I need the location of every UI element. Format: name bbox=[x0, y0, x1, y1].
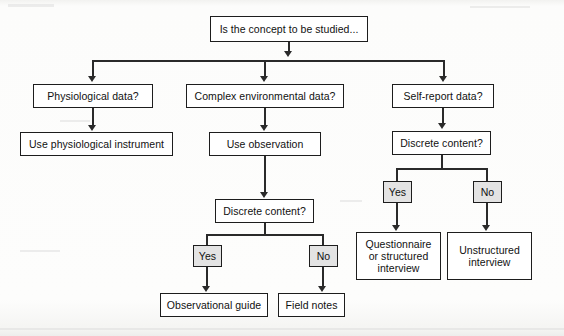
node-observational-guide[interactable]: Observational guide bbox=[160, 293, 268, 317]
edge-middle-no-to-field-notes bbox=[322, 267, 324, 288]
arrow-right-yes-to-questionnaire bbox=[392, 225, 400, 231]
node-discrete-content-right-label: Discrete content? bbox=[400, 137, 483, 149]
arrow-middle-no-to-field-notes bbox=[318, 286, 326, 292]
edge-right-bus-to-yes bbox=[396, 168, 398, 181]
node-right-no[interactable]: No bbox=[473, 181, 502, 203]
node-root-label: Is the concept to be studied... bbox=[220, 23, 359, 35]
arrow-right-no-to-unstructured-interview bbox=[482, 225, 490, 231]
node-use-observation-label: Use observation bbox=[227, 138, 304, 150]
node-field-notes-label: Field notes bbox=[286, 299, 338, 311]
node-branch-physiological-label: Physiological data? bbox=[47, 90, 138, 102]
node-unstructured-interview[interactable]: Unstructured interview bbox=[447, 232, 532, 280]
arrow-complex-environmental-to-observation bbox=[260, 125, 268, 131]
node-field-notes[interactable]: Field notes bbox=[278, 293, 345, 317]
edge-right-yes-to-questionnaire bbox=[396, 203, 398, 227]
node-middle-no-label: No bbox=[317, 250, 331, 262]
node-branch-physiological[interactable]: Physiological data? bbox=[33, 84, 153, 108]
scan-speckle bbox=[20, 250, 60, 252]
edge-middle-bus-to-no bbox=[322, 234, 324, 245]
node-middle-yes-label: Yes bbox=[199, 250, 216, 262]
node-middle-yes[interactable]: Yes bbox=[193, 245, 222, 267]
node-use-observation[interactable]: Use observation bbox=[209, 132, 321, 156]
arrow-self-report-to-discrete-content bbox=[438, 123, 446, 129]
node-questionnaire-or-structured-interview-label: Questionnaire or structured interview bbox=[360, 238, 437, 274]
edge-discrete-content-middle-bus bbox=[206, 234, 324, 236]
node-unstructured-interview-label: Unstructured interview bbox=[451, 244, 528, 268]
node-use-physiological-instrument-label: Use physiological instrument bbox=[29, 138, 164, 150]
scan-speckle bbox=[340, 200, 362, 202]
edge-right-bus bbox=[396, 168, 488, 170]
edge-middle-yes-to-observational-guide bbox=[206, 267, 208, 288]
edge-middle-bus-to-yes bbox=[206, 234, 208, 245]
node-observational-guide-label: Observational guide bbox=[167, 299, 261, 311]
arrow-middle-yes-to-observational-guide bbox=[202, 286, 210, 292]
arrow-bus-to-complex-environmental bbox=[260, 76, 268, 82]
node-right-yes-label: Yes bbox=[389, 186, 406, 198]
arrow-physiological-to-instrument bbox=[88, 125, 96, 131]
node-branch-self-report-label: Self-report data? bbox=[403, 90, 482, 102]
node-branch-complex-environmental[interactable]: Complex environmental data? bbox=[186, 84, 344, 108]
scan-speckle bbox=[0, 328, 564, 330]
node-discrete-content-right[interactable]: Discrete content? bbox=[392, 131, 491, 155]
node-branch-self-report[interactable]: Self-report data? bbox=[392, 84, 494, 108]
node-right-no-label: No bbox=[481, 186, 495, 198]
node-middle-no[interactable]: No bbox=[309, 245, 338, 267]
edge-observation-to-discrete-content bbox=[264, 156, 266, 194]
node-discrete-content-middle-label: Discrete content? bbox=[223, 205, 306, 217]
node-right-yes[interactable]: Yes bbox=[383, 181, 412, 203]
arrow-bus-to-self-report bbox=[439, 76, 447, 82]
node-questionnaire-or-structured-interview[interactable]: Questionnaire or structured interview bbox=[356, 232, 441, 280]
flowchart-figure: Is the concept to be studied... Physiolo… bbox=[0, 0, 564, 336]
arrow-root-stem bbox=[284, 51, 292, 57]
arrow-observation-to-discrete-content bbox=[260, 192, 268, 198]
edge-self-report-to-discrete-content bbox=[442, 108, 444, 124]
edge-discrete-content-right-stem bbox=[441, 155, 443, 169]
arrow-bus-to-physiological bbox=[88, 76, 96, 82]
edge-right-bus-to-no bbox=[486, 168, 488, 181]
edge-right-no-to-unstructured-interview bbox=[486, 203, 488, 227]
scan-speckle bbox=[60, 120, 90, 122]
scan-speckle bbox=[470, 6, 530, 8]
node-root[interactable]: Is the concept to be studied... bbox=[210, 16, 368, 42]
node-use-physiological-instrument[interactable]: Use physiological instrument bbox=[20, 132, 173, 156]
edge-distribution-bus bbox=[93, 60, 445, 62]
scan-speckle bbox=[8, 4, 54, 7]
node-branch-complex-environmental-label: Complex environmental data? bbox=[195, 90, 336, 102]
node-discrete-content-middle[interactable]: Discrete content? bbox=[215, 199, 314, 223]
